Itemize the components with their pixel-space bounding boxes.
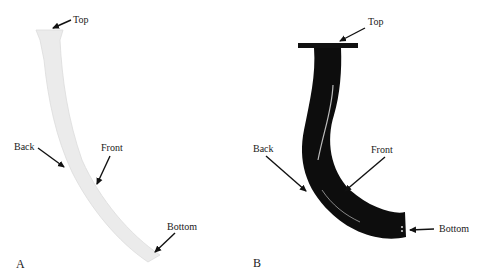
panel-a-label-top: Top [73, 15, 88, 25]
panel-a-label-bottom: Bottom [167, 222, 197, 232]
panel-b-letter: B [253, 257, 261, 269]
panel-a-shape [36, 30, 160, 262]
panel-a-label-back: Back [14, 142, 35, 152]
panel-b-label-back: Back [253, 144, 274, 154]
panel-a-letter: A [16, 258, 25, 270]
panel-a-label-front: Front [101, 143, 123, 153]
panel-b-shape [298, 43, 406, 239]
panel-b-label-bottom: Bottom [439, 224, 469, 234]
panel-b-label-top: Top [368, 17, 383, 27]
panel-b-label-front: Front [371, 145, 393, 155]
diagram-canvas [0, 0, 483, 279]
